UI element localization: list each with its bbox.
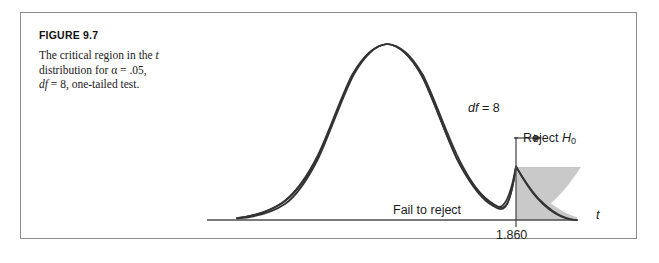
df-annotation: df = 8 — [468, 101, 500, 115]
df-annotation-value: = 8 — [478, 101, 499, 115]
caption-line2-text: distribution for α = .05, — [39, 64, 147, 76]
caption-line3-italic-df: df — [39, 78, 48, 90]
figure-frame: FIGURE 9.7 The critical region in the t … — [20, 12, 637, 239]
df-annotation-italic: df — [468, 101, 478, 115]
reject-h0-subscript: 0 — [571, 136, 576, 146]
reject-h0-label: Reject H0 — [523, 131, 576, 146]
caption-line3-text: = 8, one-tailed test. — [48, 78, 139, 90]
caption-line1-italic-t: t — [156, 49, 159, 61]
figure-root: FIGURE 9.7 The critical region in the t … — [0, 0, 659, 263]
t-distribution-curve — [237, 44, 516, 218]
distribution-plot: df = 8 Reject H0 Fail to reject 1.860 t — [171, 21, 631, 236]
critical-value-tick-label: 1.860 — [496, 228, 527, 242]
reject-h0-h: H — [562, 131, 571, 145]
reject-h0-text: Reject — [523, 131, 562, 145]
fail-to-reject-label: Fail to reject — [393, 203, 461, 217]
caption-line1-text: The critical region in the — [39, 49, 156, 61]
x-axis-label: t — [596, 207, 600, 222]
